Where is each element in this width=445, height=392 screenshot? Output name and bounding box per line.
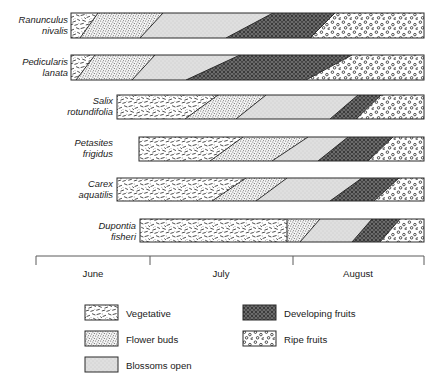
species-label-line2: lanata <box>42 67 68 78</box>
legend-item-flower-buds: Flower buds <box>85 331 178 346</box>
species-row-ranunculus-nivalis: Ranunculus nivalis <box>18 13 424 38</box>
legend-label-flower-buds: Flower buds <box>126 334 178 345</box>
month-label-july: July <box>212 268 229 279</box>
species-label-line2: rotundifolia <box>67 106 113 117</box>
legend-swatch-flower-buds <box>85 331 118 346</box>
legend-label-blossoms-open: Blossoms open <box>126 360 192 371</box>
phenology-bar <box>117 95 424 119</box>
phenology-bar <box>140 219 424 242</box>
legend-item-blossoms-open: Blossoms open <box>85 357 192 372</box>
legend-item-ripe-fruits: Ripe fruits <box>243 331 327 346</box>
species-row-dupontia-fisheri: Dupontia fisheri <box>98 219 424 242</box>
species-label-line1: Carex <box>88 178 113 189</box>
species-label-line1: Salix <box>93 95 114 106</box>
species-row-salix-rotundifolia: Salix rotundifolia <box>67 95 424 119</box>
species-label-line1: Petasites <box>74 137 113 148</box>
species-label-line2: fisheri <box>111 231 137 242</box>
legend: Vegetative Flower buds Blossoms open Dev… <box>85 305 356 372</box>
legend-swatch-developing-fruits <box>243 305 276 320</box>
species-label-line1: Pedicularis <box>22 56 68 67</box>
legend-label-ripe-fruits: Ripe fruits <box>284 334 327 345</box>
phenology-chart: Ranunculus nivalis Pedicularis la <box>0 0 445 392</box>
phenology-svg: Ranunculus nivalis Pedicularis la <box>0 0 445 392</box>
species-row-carex-aquatilis: Carex aquatilis <box>79 178 424 201</box>
legend-swatch-blossoms-open <box>85 357 118 372</box>
legend-swatch-vegetative <box>85 305 118 320</box>
species-label-line2: nivalis <box>42 25 68 36</box>
species-label-line2: aquatilis <box>79 189 114 200</box>
legend-item-developing-fruits: Developing fruits <box>243 305 356 320</box>
x-axis: June July August <box>36 256 424 279</box>
phenology-bar <box>117 178 424 201</box>
legend-label-vegetative: Vegetative <box>126 308 171 319</box>
species-label-line2: frigidus <box>83 148 114 159</box>
species-label-line1: Ranunculus <box>18 14 68 25</box>
species-label-line1: Dupontia <box>98 220 136 231</box>
phenology-bar <box>71 55 424 80</box>
phenology-bar <box>71 13 424 38</box>
phenology-bar <box>139 137 424 161</box>
legend-swatch-ripe-fruits <box>243 331 276 346</box>
legend-item-vegetative: Vegetative <box>85 305 171 320</box>
species-row-petasites-frigidus: Petasites frigidus <box>74 137 424 161</box>
species-row-pedicularis-lanata: Pedicularis lanata <box>22 55 424 80</box>
month-label-june: June <box>83 268 104 279</box>
legend-label-developing-fruits: Developing fruits <box>284 308 356 319</box>
month-label-august: August <box>343 268 373 279</box>
